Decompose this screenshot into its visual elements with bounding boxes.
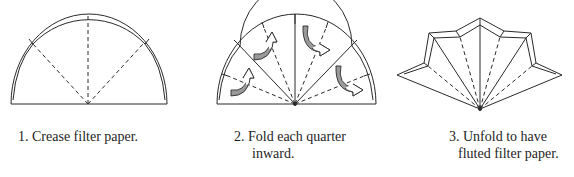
step-3-caption: 3. Unfold to have fluted filter paper.: [449, 128, 559, 162]
inner-arc: [240, 0, 352, 46]
outer-arc: [11, 14, 167, 104]
figure-3-fluted: [397, 18, 562, 111]
fold-arrow-icon: [254, 32, 277, 60]
fold-arrow-icon: [336, 66, 363, 96]
crease-lines: [33, 14, 143, 104]
caption-line: 2. Fold each quarter: [234, 128, 346, 145]
figure-1-crease: [11, 14, 167, 104]
fold-arrow-icon: [303, 26, 330, 56]
caption-line: inward.: [234, 145, 346, 162]
fold-arrows: [231, 26, 363, 96]
crease-lines: [228, 28, 364, 104]
step-2-caption: 2. Fold each quarter inward.: [234, 128, 346, 162]
caption-line: 1. Crease filter paper.: [18, 128, 138, 145]
caption-line: 3. Unfold to have: [449, 128, 559, 145]
step-1-caption: 1. Crease filter paper.: [18, 128, 138, 145]
caption-line: fluted filter paper.: [449, 145, 559, 162]
